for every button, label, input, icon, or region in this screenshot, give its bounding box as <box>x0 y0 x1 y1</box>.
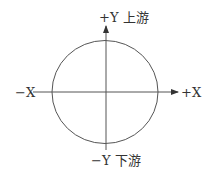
label-pos-x: +X <box>181 85 202 100</box>
diagram-canvas: +Y 上游 −X +X −Y 下游 <box>0 0 211 179</box>
label-pos-y: +Y 上游 <box>99 10 149 25</box>
label-neg-x: −X <box>15 85 36 100</box>
label-neg-y: −Y 下游 <box>91 153 141 168</box>
